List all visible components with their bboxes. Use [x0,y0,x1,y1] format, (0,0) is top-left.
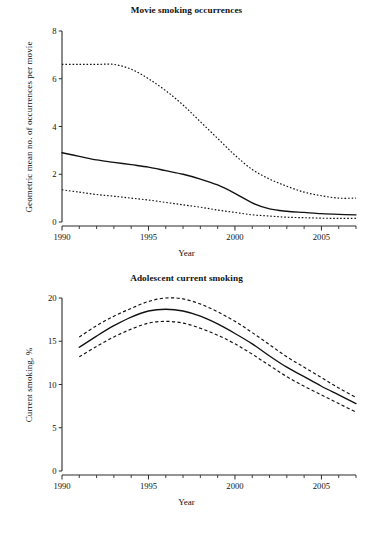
svg-text:0: 0 [52,217,56,227]
svg-text:4: 4 [52,122,57,132]
svg-text:10: 10 [48,380,57,390]
x-axis-label-adolescent-smoking: Year [0,497,373,507]
chart-panel-adolescent-smoking: Adolescent current smoking Current smoki… [0,268,373,537]
series-geometric-mean [62,153,356,215]
series-lower-95-ci [62,190,356,219]
chart-panel-movie-smoking: Movie smoking occurrences Geometric mean… [0,0,373,268]
svg-text:2: 2 [52,169,56,179]
series-lower-95-ci [79,321,356,412]
svg-text:1990: 1990 [53,481,70,491]
svg-text:2005: 2005 [313,481,330,491]
figure-two-panel-line-charts: Movie smoking occurrences Geometric mean… [0,0,373,537]
svg-text:1995: 1995 [140,481,157,491]
svg-text:1990: 1990 [53,232,70,242]
svg-text:5: 5 [52,423,56,433]
svg-text:8: 8 [52,26,56,36]
svg-text:6: 6 [52,74,57,84]
plot-area-movie-smoking: 024681990199520002005 [0,0,373,268]
x-axis-label-movie-smoking: Year [0,248,373,258]
svg-text:20: 20 [48,293,57,303]
svg-text:1995: 1995 [140,232,157,242]
svg-text:15: 15 [48,336,57,346]
svg-text:2000: 2000 [226,232,243,242]
series-prevalence [79,309,356,403]
svg-text:0: 0 [52,466,56,476]
series-upper-95-ci [62,64,356,198]
svg-text:2000: 2000 [226,481,243,491]
svg-text:2005: 2005 [313,232,330,242]
